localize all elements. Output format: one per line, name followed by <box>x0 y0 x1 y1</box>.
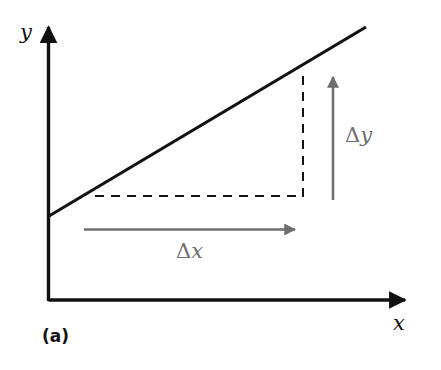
data-line <box>49 27 366 216</box>
delta-x-symbol: Δ <box>176 239 191 263</box>
delta-y-variable: y <box>359 123 373 147</box>
panel-label: (a) <box>42 326 69 346</box>
slope-diagram: y x Δy Δx (a) <box>0 0 441 370</box>
delta-x-label: Δx <box>176 239 203 263</box>
figure-container: y x Δy Δx (a) <box>0 0 441 370</box>
delta-y-symbol: Δ <box>345 123 360 147</box>
delta-x-variable: x <box>191 239 203 263</box>
delta-y-label: Δy <box>345 123 373 147</box>
y-axis-label: y <box>19 20 33 44</box>
x-axis-label: x <box>393 311 405 335</box>
